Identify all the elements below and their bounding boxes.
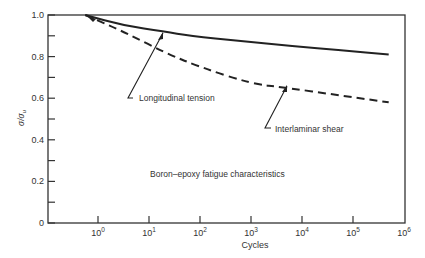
longitudinal-tension-curve xyxy=(85,15,388,55)
x-tick-label: 100 xyxy=(91,226,105,238)
x-tick-label: 104 xyxy=(295,226,309,238)
plot-frame xyxy=(48,15,405,223)
annotation-arrows xyxy=(86,15,287,128)
series1-label: Longitudinal tension xyxy=(139,93,215,103)
interlaminar-shear-curve xyxy=(85,15,388,102)
y-tick-label: 0.6 xyxy=(31,93,44,103)
plot-border xyxy=(48,15,405,223)
x-axis-ticks: 100101102103104105106 xyxy=(91,216,411,238)
arrowhead-icon xyxy=(158,32,163,40)
x-tick-label: 102 xyxy=(193,226,207,238)
x-axis-label: Cycles xyxy=(241,240,269,250)
arrowhead-icon xyxy=(282,85,287,92)
x-tick-label: 103 xyxy=(244,226,258,238)
y-tick-label: 0.8 xyxy=(31,52,44,62)
y-axis-ticks: 00.20.40.60.81.0 xyxy=(31,10,55,228)
interlaminar-shear-leader xyxy=(265,86,287,128)
y-axis-label: σ/σu xyxy=(16,109,27,126)
fatigue-chart: 00.20.40.60.81.0 100101102103104105106 L… xyxy=(0,0,425,258)
y-tick-label: 0.4 xyxy=(31,135,44,145)
y-tick-label: 0 xyxy=(39,218,44,228)
x-tick-label: 101 xyxy=(142,226,156,238)
y-tick-label: 0.2 xyxy=(31,176,44,186)
x-tick-label: 106 xyxy=(397,226,411,238)
curves xyxy=(85,15,388,102)
svg-text:σ/σu: σ/σu xyxy=(16,109,27,126)
x-tick-label: 105 xyxy=(346,226,360,238)
series2-label: Interlaminar shear xyxy=(275,124,344,134)
chart-caption: Boron–epoxy fatigue characteristics xyxy=(150,169,285,179)
y-tick-label: 1.0 xyxy=(31,10,44,20)
